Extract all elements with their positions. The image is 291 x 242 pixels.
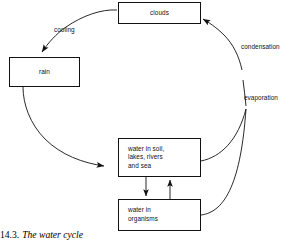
node-rain-label: rain: [39, 68, 50, 77]
arrow-water-in-organisms-to-evaporation: [201, 109, 246, 215]
arrow-rain-to-water-in-soil: [23, 87, 104, 166]
figure-caption-title: The water cycle: [22, 229, 83, 240]
node-rain: rain: [9, 57, 80, 87]
node-clouds-label: clouds: [150, 9, 169, 18]
node-water-in-organisms: water in organisms: [118, 199, 201, 231]
node-water-in-organisms-label: water in organisms: [119, 206, 158, 223]
figure-caption: 14.3.The water cycle: [0, 224, 83, 242]
node-water-in-soil: water in soil, lakes, rivers and sea: [118, 138, 201, 177]
arrow-condensation-to-clouds: [203, 19, 242, 70]
figure-caption-number: 14.3.: [0, 229, 19, 240]
edge-label-evaporation: evaporation: [244, 94, 278, 102]
arrow-water-in-soil-to-evaporation: [201, 109, 246, 161]
edge-label-condensation: condensation: [241, 43, 280, 51]
water-cycle-figure: clouds rain water in soil, lakes, rivers…: [0, 0, 291, 242]
node-water-in-soil-label: water in soil, lakes, rivers and sea: [119, 145, 164, 171]
edge-label-cooling: cooling: [54, 26, 75, 34]
node-clouds: clouds: [118, 2, 201, 24]
arrow-evaporation-to-condensation: [243, 80, 246, 106]
